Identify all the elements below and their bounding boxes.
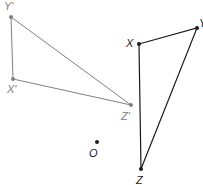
triangle-xyz xyxy=(139,28,197,169)
vertex-label: X' xyxy=(6,83,17,95)
vertex-z-prime xyxy=(129,103,133,107)
center-point-o: O xyxy=(89,140,99,159)
vertex-y-prime xyxy=(9,15,13,19)
center-label: O xyxy=(89,147,98,159)
vertex-label: Y xyxy=(199,17,203,29)
vertex-x-prime xyxy=(11,77,15,81)
vertex-label: Y' xyxy=(4,0,14,12)
diagram-canvas: XYZ Y'X'Z' O xyxy=(0,0,203,185)
vertex-x xyxy=(137,42,141,46)
triangle-xyz-prime-vertices: Y'X'Z' xyxy=(4,0,133,122)
dilation-diagram: XYZ Y'X'Z' O xyxy=(0,0,203,185)
center-point xyxy=(95,140,99,144)
vertex-label: Z xyxy=(135,174,144,185)
triangle-xyz-prime xyxy=(11,17,131,105)
vertex-label: X xyxy=(125,37,134,49)
vertex-label: Z' xyxy=(120,110,131,122)
vertex-z xyxy=(139,167,143,171)
